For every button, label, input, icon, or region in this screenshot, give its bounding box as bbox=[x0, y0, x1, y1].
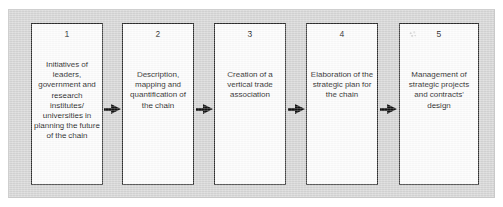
stage-text-3: Creation of a vertical trade association bbox=[217, 46, 283, 178]
stage-box-4[interactable]: 4 Elaboration of the strategic plan for … bbox=[306, 23, 378, 185]
arrow-head bbox=[111, 104, 121, 114]
stage-box-5[interactable]: 5 Management of strategic projects and c… bbox=[399, 23, 479, 185]
arrow-head bbox=[387, 104, 397, 114]
arrow-2-to-3-icon bbox=[196, 104, 213, 115]
stage-box-3[interactable]: 3 Creation of a vertical trade associati… bbox=[214, 23, 286, 185]
arrow-3-to-4-icon bbox=[288, 104, 305, 115]
stage-number-4: 4 bbox=[307, 29, 377, 39]
process-flow-figure: 1 Initiatives of leaders, government and… bbox=[0, 0, 503, 207]
stage-number-5: 5 bbox=[400, 29, 478, 39]
arrow-1-to-2-icon bbox=[104, 104, 121, 115]
diagram-panel: 1 Initiatives of leaders, government and… bbox=[8, 9, 495, 198]
arrow-4-to-5-icon bbox=[380, 104, 397, 115]
stage-box-2[interactable]: 2 Description, mapping and quantificatio… bbox=[122, 23, 194, 185]
arrow-head bbox=[295, 104, 305, 114]
stage-text-2: Description, mapping and quantification … bbox=[125, 46, 191, 178]
stage-text-4: Elaboration of the strategic plan for th… bbox=[309, 46, 375, 178]
stage-row: 1 Initiatives of leaders, government and… bbox=[9, 10, 496, 199]
stage-text-1: Initiatives of leaders, government and r… bbox=[34, 46, 100, 178]
stage-number-2: 2 bbox=[123, 29, 193, 39]
stage-number-1: 1 bbox=[32, 29, 102, 39]
stage-text-5: Management of strategic projects and con… bbox=[402, 46, 476, 178]
arrow-head bbox=[203, 104, 213, 114]
stage-number-3: 3 bbox=[215, 29, 285, 39]
stage-box-1[interactable]: 1 Initiatives of leaders, government and… bbox=[31, 23, 103, 185]
